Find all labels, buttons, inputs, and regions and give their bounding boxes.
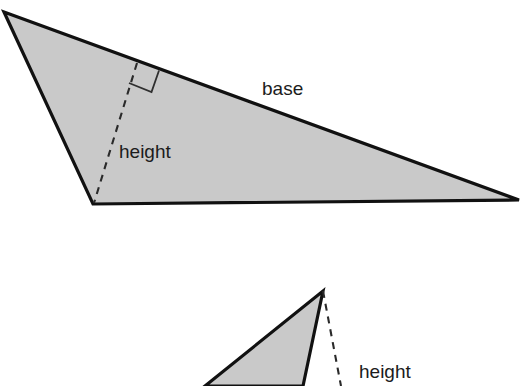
- figure-canvas: base height height: [0, 0, 522, 386]
- base-label: base: [262, 78, 303, 99]
- top-height-label: height: [119, 141, 171, 162]
- bottom-height-label: height: [359, 361, 411, 382]
- triangle-diagram: base height height: [0, 0, 522, 386]
